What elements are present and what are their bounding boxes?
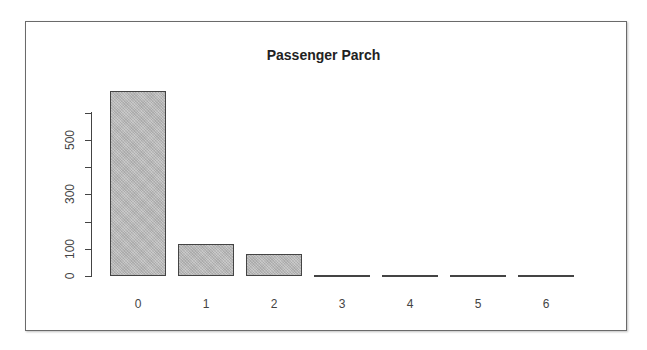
- y-tick-label: 100: [63, 236, 77, 262]
- y-tick-label: 300: [63, 181, 77, 207]
- x-tick-label: 1: [186, 297, 226, 311]
- bar-6: [518, 275, 574, 277]
- bar-5: [450, 275, 506, 277]
- x-tick-label: 3: [322, 297, 362, 311]
- x-tick-label: 2: [254, 297, 294, 311]
- y-tick: [85, 167, 92, 168]
- y-tick: [85, 249, 92, 250]
- bar-1: [178, 244, 234, 276]
- y-tick: [85, 140, 92, 141]
- bar-3: [314, 275, 370, 277]
- bar-2: [246, 254, 302, 276]
- x-tick-label: 6: [526, 297, 566, 311]
- y-tick: [85, 194, 92, 195]
- y-tick-label: 0: [63, 263, 77, 289]
- y-tick-label: 500: [63, 127, 77, 153]
- x-tick-label: 5: [458, 297, 498, 311]
- y-tick: [85, 222, 92, 223]
- bar-0: [110, 91, 166, 276]
- x-tick-label: 4: [390, 297, 430, 311]
- chart-title: Passenger Parch: [0, 47, 647, 63]
- bar-4: [382, 275, 438, 277]
- x-tick-label: 0: [118, 297, 158, 311]
- y-tick: [85, 113, 92, 114]
- y-tick: [85, 276, 92, 277]
